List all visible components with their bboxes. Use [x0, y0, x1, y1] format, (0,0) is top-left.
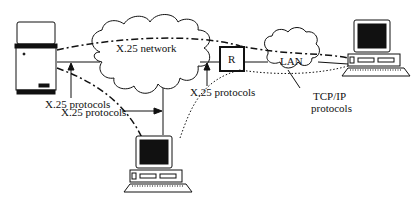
tcpip-label-line2: protocols: [311, 102, 352, 114]
server-tower-icon: [15, 22, 57, 94]
tcpip-pointer: [288, 70, 300, 88]
host-to-right-path: [57, 38, 348, 58]
computer-icon-bottom: [124, 136, 192, 192]
lan-label: LAN: [280, 55, 303, 67]
tcpip-label-line1: TCP/IP: [313, 90, 346, 102]
lan-link-right: [318, 62, 348, 64]
computer-icon-right: [342, 20, 410, 76]
bottom-protocols-label: X.25 protocols: [61, 106, 126, 118]
router-label: R: [228, 53, 235, 65]
router-protocols-label: X.25 protocols: [190, 86, 255, 98]
x25-network-label: X.25 network: [116, 42, 177, 54]
